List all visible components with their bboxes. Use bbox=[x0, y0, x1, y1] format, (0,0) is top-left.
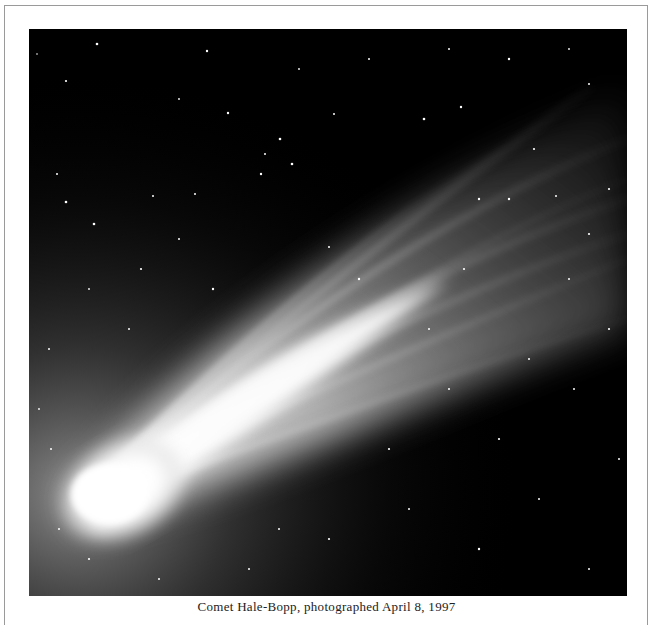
comet-image bbox=[29, 29, 627, 596]
figure-caption: Comet Hale-Bopp, photographed April 8, 1… bbox=[0, 599, 653, 615]
comet-photo bbox=[29, 29, 627, 596]
